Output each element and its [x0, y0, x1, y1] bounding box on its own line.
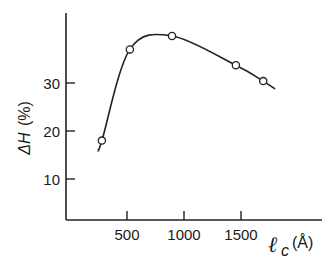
y-axis-label: ΔH (%) [16, 101, 33, 156]
data-markers [98, 32, 267, 144]
y-tick-label: 10 [43, 171, 60, 188]
y-tick-label: 20 [43, 123, 60, 140]
x-tick-label: 1500 [224, 226, 257, 243]
data-point-marker [232, 62, 239, 69]
y-label-symbol: ΔH [16, 132, 33, 156]
x-tick-label: 500 [114, 226, 139, 243]
x-ticks: 50010001500 [114, 211, 257, 243]
y-label-unit: (%) [16, 101, 33, 126]
x-label-subscript: c [281, 242, 289, 259]
svg-text:ΔH (%): ΔH (%) [16, 101, 33, 156]
y-tick-label: 30 [43, 75, 60, 92]
x-label-unit: (Å) [292, 233, 313, 251]
chart: 102030 50010001500 ΔH (%) ℓ c (Å) [0, 0, 336, 265]
x-axis-label: ℓ c (Å) [268, 232, 313, 259]
data-point-marker [168, 32, 175, 39]
data-point-marker [126, 46, 133, 53]
data-point-marker [260, 77, 267, 84]
y-ticks: 102030 [43, 75, 75, 188]
x-tick-label: 1000 [167, 226, 200, 243]
fit-curve [98, 34, 275, 151]
data-point-marker [98, 137, 105, 144]
x-label-symbol: ℓ [268, 232, 278, 257]
